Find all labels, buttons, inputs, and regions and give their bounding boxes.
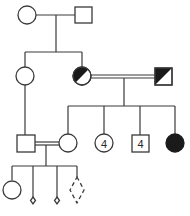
- generation-4: [3, 177, 84, 204]
- miscarriage-diamond-IV-3: [55, 197, 60, 204]
- miscarriage-diamond-IV-2: [31, 197, 36, 204]
- generation-1: [18, 6, 92, 67]
- generation-2: [16, 67, 175, 135]
- sister-count-label: 4: [101, 138, 107, 150]
- generation-3: 4 4: [12, 134, 184, 197]
- female-unaffected-IV-1: [3, 181, 21, 199]
- female-affected-III-5: [166, 134, 184, 152]
- male-group-III-4: 4: [132, 135, 149, 152]
- female-unaffected-I-1: [18, 6, 36, 24]
- pedigree-chart: 4 4: [0, 0, 190, 216]
- female-unaffected-III-2: [59, 134, 77, 152]
- male-unaffected-I-2: [75, 7, 92, 23]
- pregnancy-dashed-diamond-IV-4: [70, 177, 84, 203]
- female-group-III-3: 4: [95, 134, 113, 152]
- female-carrier-II-2: [73, 67, 91, 85]
- male-carrier-II-3: [155, 68, 172, 85]
- male-unaffected-III-1: [17, 135, 35, 152]
- brother-count-label: 4: [137, 138, 143, 150]
- female-unaffected-II-1: [16, 67, 34, 85]
